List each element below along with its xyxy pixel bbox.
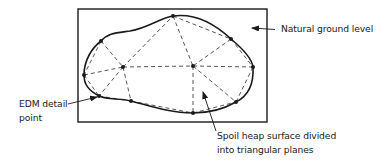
edm-points [82, 14, 255, 115]
spoil-surface-label-line1: Spoil heap surface divided [217, 129, 336, 143]
triangle-edge [193, 66, 236, 102]
edm-detail-point [99, 39, 103, 43]
natural-ground-arrow [252, 28, 275, 30]
triangle-edge [173, 16, 193, 66]
spoil-surface-label-line2: into triangular planes [217, 143, 314, 157]
triangle-edge [101, 41, 123, 67]
edm-point-arrow [68, 97, 97, 104]
triangle-edge [123, 66, 193, 67]
edm-detail-point [82, 73, 86, 77]
edm-detail-point [171, 14, 175, 18]
edm-point-label-line1: EDM detail [19, 97, 68, 111]
edm-detail-point [191, 111, 195, 115]
triangle-edge [123, 67, 131, 101]
triangle-edge [193, 39, 231, 66]
edm-detail-point [191, 64, 195, 68]
edm-detail-point [129, 99, 133, 103]
edm-detail-point [121, 65, 125, 69]
edm-detail-point [229, 37, 233, 41]
triangle-edge [84, 41, 101, 75]
triangle-edge [193, 66, 253, 67]
edm-detail-point [97, 94, 101, 98]
edm-detail-point [251, 65, 255, 69]
natural-ground-label: Natural ground level [281, 22, 373, 36]
edm-detail-point [234, 100, 238, 104]
spoil-heap-outline [84, 16, 253, 113]
triangle-edge [99, 67, 123, 96]
ground-frame [78, 9, 267, 122]
edm-point-label-line2: point [19, 111, 42, 125]
triangle-edge [231, 39, 253, 67]
triangle-edge [123, 16, 173, 67]
